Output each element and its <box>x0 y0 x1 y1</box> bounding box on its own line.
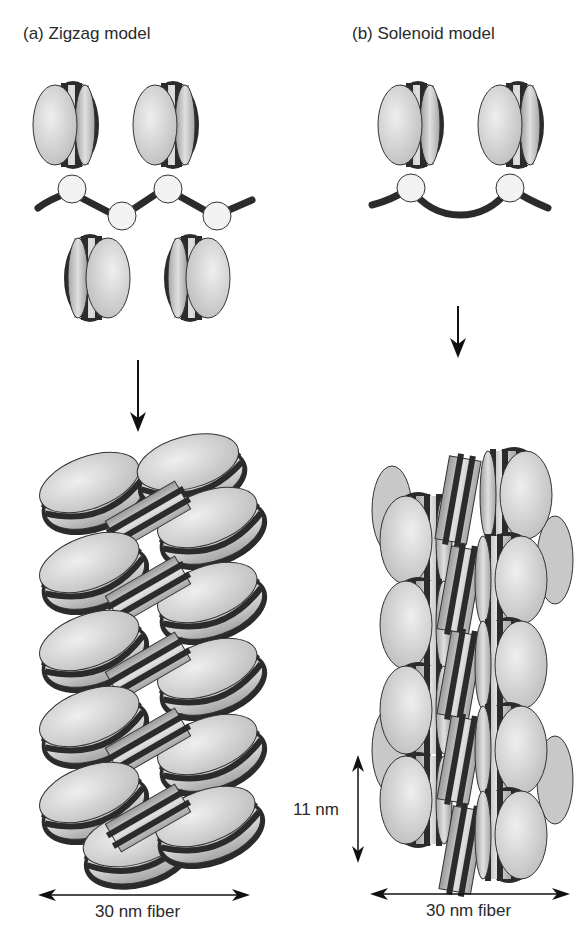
chromatin-diagram <box>0 0 585 932</box>
solenoid-top-chain <box>372 81 548 215</box>
zigzag-fiber <box>28 423 277 901</box>
panel-b-title: (b) Solenoid model <box>352 24 495 44</box>
dimension-label-11nm: 11 nm <box>293 800 339 820</box>
nucleosome-height-arrow <box>352 755 364 863</box>
panel-a-title: (a) Zigzag model <box>23 24 151 44</box>
panel-b-fiber-label: 30 nm fiber <box>426 901 511 921</box>
fiber-width-arrow-a <box>38 889 250 901</box>
solenoid-fiber <box>372 447 573 898</box>
zigzag-top-chain <box>33 81 252 322</box>
panel-a-fiber-label: 30 nm fiber <box>95 902 180 922</box>
